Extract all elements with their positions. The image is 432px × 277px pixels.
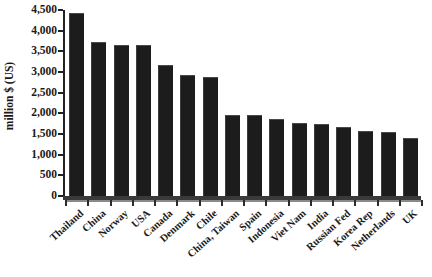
x-axis-tick-label: Spain bbox=[107, 208, 264, 277]
bar bbox=[180, 75, 195, 196]
y-axis-tick-label: 0 bbox=[7, 189, 63, 202]
y-axis-tick-mark bbox=[58, 30, 63, 32]
x-axis-tick-mark bbox=[65, 200, 67, 206]
bar bbox=[358, 131, 373, 196]
y-axis-tick-mark bbox=[58, 133, 63, 135]
bar bbox=[114, 45, 129, 196]
x-axis-tick-label: Viet Nam bbox=[152, 208, 309, 277]
x-axis-tick-mark bbox=[288, 200, 290, 206]
y-axis-tick-label: 3,500 bbox=[7, 44, 63, 57]
bar bbox=[336, 127, 351, 196]
plot-area: 05001,0001,5002,0002,5003,0003,5004,0004… bbox=[63, 10, 421, 198]
x-axis-tick-mark bbox=[176, 200, 178, 206]
bar bbox=[381, 132, 396, 196]
x-axis-tick-mark bbox=[310, 200, 312, 206]
bar bbox=[292, 123, 307, 196]
x-axis-tick-label: Russian Fed bbox=[196, 208, 353, 277]
x-axis-tick-mark bbox=[265, 200, 267, 206]
x-axis-tick-label: Norway bbox=[0, 208, 131, 277]
x-axis-tick-label: India bbox=[174, 208, 331, 277]
bar bbox=[269, 119, 284, 196]
y-axis-tick-mark bbox=[58, 92, 63, 94]
y-axis-tick-mark bbox=[58, 50, 63, 52]
x-axis-tick-label: Chile bbox=[63, 208, 220, 277]
y-axis-tick-mark bbox=[58, 9, 63, 11]
x-axis-tick-mark bbox=[110, 200, 112, 206]
x-axis-tick-mark bbox=[377, 200, 379, 206]
bar bbox=[158, 65, 173, 196]
bar bbox=[247, 115, 262, 196]
y-axis-tick-mark bbox=[58, 195, 63, 197]
x-axis-tick-mark bbox=[132, 200, 134, 206]
x-axis-tick-mark bbox=[421, 200, 423, 206]
y-axis-tick-mark bbox=[58, 112, 63, 114]
x-axis-tick-label: Thailand bbox=[0, 208, 86, 277]
x-axis-tick-label: Netherlands bbox=[241, 208, 398, 277]
x-axis-tick-mark bbox=[154, 200, 156, 206]
x-axis-tick-mark bbox=[221, 200, 223, 206]
x-axis-tick-mark bbox=[243, 200, 245, 206]
x-axis-tick-label: USA bbox=[0, 208, 153, 277]
x-axis-tick-mark bbox=[332, 200, 334, 206]
x-axis-tick-label: Korea Rep bbox=[219, 208, 376, 277]
y-axis-tick-mark bbox=[58, 71, 63, 73]
bar bbox=[403, 138, 418, 196]
y-axis-tick-mark bbox=[58, 174, 63, 176]
x-axis-tick-label: China, Taiwan bbox=[85, 208, 242, 277]
y-axis-tick-label: 2,500 bbox=[7, 86, 63, 99]
x-axis-tick-mark bbox=[199, 200, 201, 206]
y-axis-tick-mark bbox=[58, 154, 63, 156]
x-axis-tick-label: Indonesia bbox=[130, 208, 287, 277]
x-axis-tick-label: Denmark bbox=[41, 208, 198, 277]
y-axis-tick-label: 2,000 bbox=[7, 106, 63, 119]
x-axis-tick-mark bbox=[354, 200, 356, 206]
bar-chart: million $ (US) 05001,0001,5002,0002,5003… bbox=[0, 0, 432, 277]
y-axis-tick-label: 1,000 bbox=[7, 148, 63, 161]
x-axis-tick-mark bbox=[87, 200, 89, 206]
bar bbox=[136, 45, 151, 196]
bar bbox=[225, 115, 240, 196]
bar-series bbox=[65, 10, 421, 196]
y-axis-tick-label: 4,500 bbox=[7, 3, 63, 16]
y-axis-tick-label: 1,500 bbox=[7, 127, 63, 140]
y-axis-tick-label: 500 bbox=[7, 168, 63, 181]
bar bbox=[314, 124, 329, 196]
bar bbox=[203, 77, 218, 196]
x-axis-tick-mark bbox=[399, 200, 401, 206]
x-axis-tick-label: UK bbox=[263, 208, 420, 277]
bar bbox=[69, 13, 84, 196]
bar bbox=[91, 42, 106, 196]
x-axis-tick-label: Canada bbox=[18, 208, 175, 277]
y-axis-tick-label: 3,000 bbox=[7, 65, 63, 78]
y-axis-tick-label: 4,000 bbox=[7, 24, 63, 37]
x-axis-tick-label: China bbox=[0, 208, 108, 277]
